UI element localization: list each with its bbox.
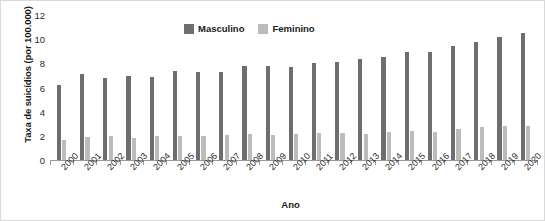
y-tick-label: 6: [40, 82, 45, 93]
bar-masculino-2009: [266, 66, 270, 160]
bar-group: [80, 15, 90, 160]
bar-masculino-2014: [381, 57, 385, 160]
bar-group: [335, 15, 345, 160]
bar-masculino-2013: [358, 59, 362, 161]
bar-feminino-2018: [480, 127, 484, 160]
bar-group: [405, 15, 415, 160]
bar-masculino-2015: [405, 52, 409, 160]
y-tick-label: 10: [34, 34, 45, 45]
bar-group: [150, 15, 160, 160]
bar-feminino-2020: [526, 126, 530, 160]
legend-label: Masculino: [198, 23, 244, 34]
chart-legend: MasculinoFeminino: [184, 23, 315, 34]
bar-masculino-2008: [242, 66, 246, 160]
bar-masculino-2000: [57, 85, 61, 160]
bar-group: [242, 15, 252, 160]
bar-group: [266, 15, 276, 160]
legend-item-masculino[interactable]: Masculino: [184, 23, 244, 34]
bar-group: [173, 15, 183, 160]
bar-group: [381, 15, 391, 160]
bar-group: [451, 15, 461, 160]
bar-masculino-2017: [451, 46, 455, 160]
y-tick-label: 4: [40, 106, 45, 117]
bar-group: [219, 15, 229, 160]
bar-group: [57, 15, 67, 160]
legend-label: Feminino: [272, 23, 314, 34]
bar-feminino-2011: [317, 133, 321, 160]
bar-masculino-2005: [173, 71, 177, 160]
bar-masculino-2020: [521, 33, 525, 160]
bar-group: [196, 15, 206, 160]
bar-group: [358, 15, 368, 160]
bar-masculino-2002: [103, 78, 107, 160]
bar-masculino-2019: [497, 37, 501, 160]
bar-group: [474, 15, 484, 160]
bar-group: [103, 15, 113, 160]
bar-masculino-2011: [312, 63, 316, 160]
bar-masculino-2003: [126, 76, 130, 160]
legend-swatch-icon: [258, 24, 268, 34]
bar-group: [497, 15, 507, 160]
bar-feminino-2019: [503, 126, 507, 160]
y-axis-title: Taxa de suicídios (por 100.000): [22, 0, 33, 155]
bar-group: [126, 15, 136, 160]
bar-feminino-2010: [294, 134, 298, 160]
bar-group: [521, 15, 531, 160]
bar-feminino-2017: [456, 129, 460, 160]
bar-group: [289, 15, 299, 160]
x-axis-tick-labels: 2000200120022003200420052006200720082009…: [50, 165, 537, 195]
bar-group: [312, 15, 322, 160]
y-tick-label: 8: [40, 58, 45, 69]
bar-masculino-2006: [196, 72, 200, 160]
bar-masculino-2018: [474, 42, 478, 160]
x-axis-title: Ano: [1, 199, 545, 210]
y-tick-label: 2: [40, 130, 45, 141]
bar-chart: Taxa de suicídios (por 100.000) 02468101…: [0, 0, 545, 221]
bar-masculino-2004: [150, 77, 154, 160]
plot-area: 024681012: [50, 15, 537, 160]
legend-swatch-icon: [184, 24, 194, 34]
bar-masculino-2012: [335, 62, 339, 160]
y-tick-label: 12: [34, 10, 45, 21]
bar-feminino-2016: [433, 132, 437, 160]
bar-masculino-2010: [289, 67, 293, 160]
bar-masculino-2001: [80, 74, 84, 160]
bar-masculino-2016: [428, 52, 432, 160]
legend-item-feminino[interactable]: Feminino: [258, 23, 314, 34]
bar-masculino-2007: [219, 72, 223, 160]
y-tick-label: 0: [40, 155, 45, 166]
bar-group: [428, 15, 438, 160]
